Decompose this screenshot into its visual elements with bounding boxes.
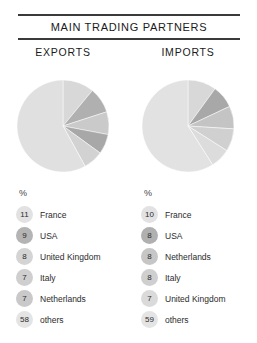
legend-country-label: Netherlands [40, 294, 86, 304]
header-rule-bottom [18, 38, 240, 40]
legend-value-badge: 8 [16, 248, 33, 265]
legend-row: 58others [16, 309, 136, 330]
legend-country-label: Italy [40, 273, 56, 283]
exports-heading: EXPORTS [8, 46, 118, 58]
legend-value-badge: 7 [16, 269, 33, 286]
legend-country-label: others [165, 315, 189, 325]
legend-country-label: France [40, 210, 66, 220]
legend-row: 7United Kingdom [141, 288, 257, 309]
imports-heading: IMPORTS [133, 46, 243, 58]
legend-row: 9USA [16, 225, 136, 246]
legend-country-label: United Kingdom [165, 294, 225, 304]
legend-row: 7Italy [16, 267, 136, 288]
legend-country-label: USA [165, 231, 182, 241]
legend-row: 59others [141, 309, 257, 330]
legend-value-badge: 58 [16, 311, 33, 328]
legend-row: 8USA [141, 225, 257, 246]
legend-value-badge: 7 [141, 290, 158, 307]
legend-country-label: United Kingdom [40, 252, 100, 262]
legend-country-label: Netherlands [165, 252, 211, 262]
legend-value-badge: 9 [16, 227, 33, 244]
imports-pie-chart [142, 80, 234, 172]
imports-legend: % 10France8USA8Netherlands8Italy7United … [141, 188, 257, 330]
legend-country-label: France [165, 210, 191, 220]
legend-row: 8United Kingdom [16, 246, 136, 267]
exports-pie-chart [17, 80, 109, 172]
legend-country-label: Italy [165, 273, 181, 283]
legend-value-badge: 8 [141, 248, 158, 265]
legend-row: 10France [141, 204, 257, 225]
legend-country-label: USA [40, 231, 57, 241]
imports-unit-label: % [144, 188, 257, 198]
legend-value-badge: 11 [16, 206, 33, 223]
legend-row: 8Italy [141, 267, 257, 288]
exports-legend: % 11France9USA8United Kingdom7Italy7Neth… [16, 188, 136, 330]
exports-unit-label: % [19, 188, 136, 198]
imports-pie-svg [142, 80, 234, 172]
exports-pie-svg [17, 80, 109, 172]
legend-value-badge: 7 [16, 290, 33, 307]
legend-value-badge: 8 [141, 227, 158, 244]
legend-row: 8Netherlands [141, 246, 257, 267]
legend-value-badge: 8 [141, 269, 158, 286]
legend-value-badge: 10 [141, 206, 158, 223]
legend-country-label: others [40, 315, 64, 325]
header: MAIN TRADING PARTNERS [18, 14, 240, 40]
legend-row: 7Netherlands [16, 288, 136, 309]
chart-page: MAIN TRADING PARTNERS EXPORTS IMPORTS % … [0, 0, 257, 343]
legend-value-badge: 59 [141, 311, 158, 328]
page-title: MAIN TRADING PARTNERS [18, 16, 240, 38]
legend-row: 11France [16, 204, 136, 225]
